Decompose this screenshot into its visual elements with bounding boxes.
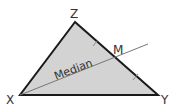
midpoint-label-m: M	[113, 43, 123, 57]
vertex-label-y: Y	[160, 93, 169, 107]
triangle-median-diagram: Z X Y M Median	[0, 0, 177, 109]
vertex-label-x: X	[6, 93, 14, 107]
vertex-label-z: Z	[70, 7, 78, 21]
